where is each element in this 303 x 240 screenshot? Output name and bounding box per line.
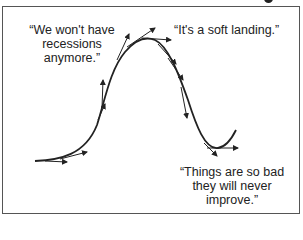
quote-peak: “It's a soft landing.” <box>174 23 294 37</box>
quote-trough-line-1: “Things are so bad <box>172 165 292 179</box>
quote-boom-line-1: “We won't have <box>18 23 126 37</box>
quote-trough: “Things are so bad they will never impro… <box>172 165 292 207</box>
quote-boom-line-2: recessions <box>18 37 126 51</box>
quote-boom: “We won't have recessions anymore.” <box>18 23 126 65</box>
quote-trough-line-3: improve.” <box>172 193 292 207</box>
quote-boom-line-3: anymore.” <box>18 51 126 65</box>
quote-trough-line-2: they will never <box>172 179 292 193</box>
